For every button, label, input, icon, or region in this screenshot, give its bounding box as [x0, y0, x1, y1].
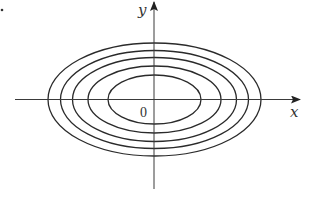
diagram-svg: x y 0 [0, 0, 309, 205]
contour-diagram: x y 0 [0, 0, 309, 205]
y-axis-label: y [137, 1, 147, 19]
stray-dot [1, 9, 4, 12]
origin-label: 0 [140, 105, 147, 120]
x-axis-label: x [290, 103, 299, 121]
